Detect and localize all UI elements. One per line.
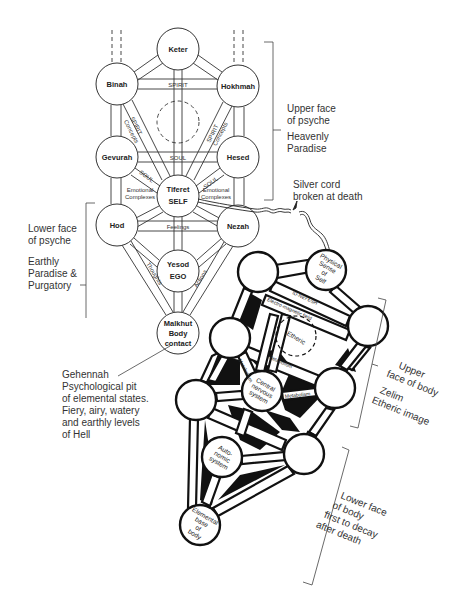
label-complexes-left: Complexes (125, 194, 155, 200)
lower-psyche-line1: Lower face (28, 223, 77, 234)
label-malkhut: Malkhut (164, 319, 193, 328)
label-tiferet: Tiferet (167, 185, 190, 194)
label-self: SELF (168, 197, 188, 206)
body-node-top (238, 252, 278, 292)
upper-psyche-line3: Heavenly (287, 131, 329, 142)
label-hesed: Hesed (227, 153, 250, 162)
body-node-right-lower (284, 434, 324, 474)
label-nezah: Nezah (227, 222, 250, 231)
body-node-right-mid (315, 368, 355, 408)
body-node-left-upper (210, 318, 250, 358)
label-feelings: Feelings (167, 224, 190, 230)
node-tiferet (157, 175, 199, 217)
label-emotional-right: Emotional (203, 187, 230, 193)
gehennah-line2: Psychological pit (62, 381, 137, 392)
label-body: Body (169, 329, 189, 338)
lower-psyche-line3: Earthly (28, 256, 59, 267)
upper-psyche-line4: Paradise (287, 143, 327, 154)
label-complexes-right: Complexes (201, 194, 231, 200)
lower-psyche-line2: of psyche (28, 235, 71, 246)
label-spirit: SPIRIT (168, 82, 188, 88)
gehennah-line1: Gehennah (62, 369, 109, 380)
label-etheric: Etheric (286, 329, 308, 346)
silver-cord-line2: broken at death (293, 191, 363, 202)
label-yesod: Yesod (167, 260, 190, 269)
label-gevurah: Gevurah (102, 153, 133, 162)
label-binah: Binah (107, 80, 128, 89)
upper-psyche-line2: of psyche (287, 115, 330, 126)
gehennah-line3: of elemental states. (62, 393, 149, 404)
lower-psyche-line5: Purgatory (28, 280, 71, 291)
gehennah-line6: of Hell (62, 429, 90, 440)
label-ego: EGO (170, 272, 187, 281)
silver-cord-line1: Silver cord (293, 179, 340, 190)
label-hod: Hod (110, 221, 125, 230)
label-soul: SOUL (170, 155, 187, 161)
gehennah-line5: and earthly levels (62, 417, 140, 428)
body-node-right-upper (348, 306, 388, 346)
gehennah-line4: Fiery, airy, watery (62, 405, 139, 416)
label-hokhmah: Hokhmah (221, 82, 256, 91)
label-emotional-left: Emotional (127, 187, 154, 193)
lower-psyche-line4: Paradise & (28, 268, 77, 279)
upper-psyche-line1: Upper face (287, 103, 336, 114)
kabbalistic-tree-diagram: Keter Binah Hokhmah Gevurah Hesed Tifere… (0, 0, 465, 600)
daat-dashed-circle (157, 101, 199, 143)
label-keter: Keter (168, 45, 187, 54)
body-node-left-mid (176, 380, 216, 420)
arrow-icon (293, 201, 297, 210)
